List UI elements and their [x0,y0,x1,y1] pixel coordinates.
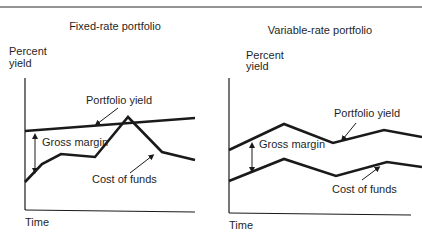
gross-margin-label: Gross margin [42,136,108,148]
portfolio-yield-label: Portfolio yield [334,107,400,119]
figure-canvas: Fixed-rate portfolio Percent yield Time … [0,0,422,243]
x-axis [229,213,411,215]
cost-of-funds-label: Cost of funds [92,173,157,185]
x-axis [25,210,195,212]
gross-margin-label: Gross margin [259,138,325,150]
cost-of-funds-leader [362,168,378,180]
cost-of-funds-label: Cost of funds [332,183,397,195]
panel-title: Fixed-rate portfolio [69,20,161,32]
cost-of-funds-leader [130,156,152,173]
y-axis-label: yield [246,60,269,72]
x-axis-label: Time [25,216,49,228]
panel-title: Variable-rate portfolio [268,24,372,36]
portfolio-yield-label: Portfolio yield [86,94,152,106]
portfolio-yield-leader [97,108,118,124]
cost-of-funds-line [229,159,422,181]
panel-fixed-rate: Fixed-rate portfolio Percent yield Time … [9,20,195,228]
portfolio-yield-line [25,118,195,131]
y-axis-label: Percent [9,45,47,57]
portfolio-yield-line [229,124,422,150]
x-axis-label: Time [229,219,253,231]
y-axis-label: yield [9,57,32,69]
panel-variable-rate: Variable-rate portfolio Percent yield Ti… [229,24,422,231]
